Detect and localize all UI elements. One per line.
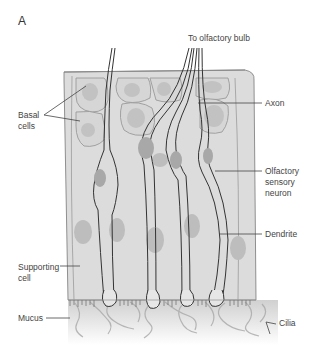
label-supporting-cell-line1: Supporting bbox=[18, 262, 59, 272]
label-osn-line3: neuron bbox=[265, 188, 291, 198]
label-basal-cells-line1: Basal bbox=[18, 110, 39, 120]
label-cilia: Cilia bbox=[279, 318, 296, 328]
label-basal-cells-line2: cells bbox=[18, 121, 35, 131]
label-supporting-cell-line2: cell bbox=[18, 273, 31, 283]
label-to-olfactory-bulb: To olfactory bulb bbox=[188, 33, 250, 43]
label-osn-line1: Olfactory bbox=[265, 166, 299, 176]
label-osn-line2: sensory bbox=[265, 177, 295, 187]
mucus-layer bbox=[68, 300, 278, 345]
label-axon: Axon bbox=[265, 98, 284, 108]
label-mucus: Mucus bbox=[18, 313, 43, 323]
label-dendrite: Dendrite bbox=[265, 229, 297, 239]
